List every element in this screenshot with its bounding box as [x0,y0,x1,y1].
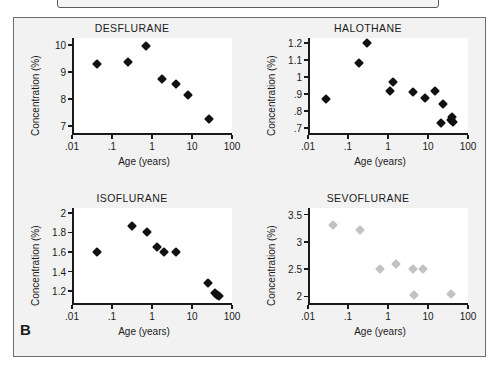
x-tick-label-sevoflurane: 10 [422,311,433,322]
x-tick-halothane [387,135,389,139]
x-tick-label-desflurane: 1 [149,141,155,152]
x-tick-label-desflurane: .01 [65,141,79,152]
y-tick-label-isoflurane: 1.6 [30,247,66,258]
y-tick-sevoflurane [304,241,308,243]
x-tick-label-halothane: .1 [344,141,352,152]
y-axis-sevoflurane [308,208,310,304]
x-tick-label-desflurane: .1 [108,141,116,152]
x-tick-halothane [347,135,349,139]
panel-title-halothane: HALOTHANE [250,22,486,34]
y-tick-isoflurane [68,251,72,253]
x-tick-desflurane [231,135,233,139]
x-tick-label-isoflurane: 10 [186,311,197,322]
y-tick-label-isoflurane: 2 [30,207,66,218]
x-tick-label-halothane: 10 [422,141,433,152]
x-tick-isoflurane [111,305,113,309]
x-tick-halothane [307,135,309,139]
axis-title-x-desflurane: Age (years) [118,156,170,167]
y-tick-label-isoflurane: 1.2 [30,286,66,297]
x-tick-sevoflurane [467,305,469,309]
y-tick-halothane [304,42,308,44]
y-tick-label-halothane: .9 [266,88,302,99]
x-tick-isoflurane [231,305,233,309]
panel-letter-b: B [20,321,31,338]
x-tick-label-sevoflurane: 100 [460,311,477,322]
x-tick-label-isoflurane: .1 [108,311,116,322]
axis-title-x-halothane: Age (years) [354,156,406,167]
x-tick-halothane [467,135,469,139]
y-tick-label-sevoflurane: 2.5 [266,264,302,275]
x-tick-label-halothane: 1 [385,141,391,152]
y-tick-desflurane [68,71,72,73]
x-tick-halothane [427,135,429,139]
x-tick-sevoflurane [387,305,389,309]
x-tick-label-isoflurane: 1 [149,311,155,322]
x-tick-isoflurane [191,305,193,309]
x-tick-desflurane [191,135,193,139]
y-tick-halothane [304,76,308,78]
y-tick-isoflurane [68,212,72,214]
axis-title-x-isoflurane: Age (years) [118,326,170,337]
y-tick-label-isoflurane: 1.4 [30,266,66,277]
y-tick-desflurane [68,125,72,127]
x-tick-label-sevoflurane: 1 [385,311,391,322]
y-tick-label-halothane: 1.2 [266,38,302,49]
y-tick-label-halothane: 1 [266,72,302,83]
y-tick-halothane [304,93,308,95]
y-tick-label-desflurane: 8 [30,94,66,105]
x-tick-label-isoflurane: .01 [65,311,79,322]
panel-desflurane: DESFLURANE Concentration (%) Age (years)… [14,18,250,188]
y-tick-label-sevoflurane: 3 [266,236,302,247]
panel-title-isoflurane: ISOFLURANE [14,192,250,204]
y-tick-label-desflurane: 7 [30,121,66,132]
y-tick-label-halothane: .8 [266,105,302,116]
x-tick-desflurane [111,135,113,139]
x-tick-label-desflurane: 10 [186,141,197,152]
y-tick-sevoflurane [304,214,308,216]
y-tick-halothane [304,127,308,129]
x-tick-isoflurane [71,305,73,309]
y-tick-desflurane [68,44,72,46]
clipped-panel-above [57,0,439,8]
figure-frame: DESFLURANE Concentration (%) Age (years)… [13,17,486,357]
panel-halothane: HALOTHANE Concentration (%) Age (years) … [250,18,486,188]
x-tick-label-halothane: 100 [460,141,477,152]
x-tick-sevoflurane [427,305,429,309]
y-axis-halothane [308,38,310,134]
y-tick-desflurane [68,98,72,100]
panel-sevoflurane: SEVOFLURANE Concentration (%) Age (years… [250,188,486,358]
y-tick-label-desflurane: 10 [30,39,66,50]
x-tick-label-desflurane: 100 [224,141,241,152]
y-tick-label-sevoflurane: 3.5 [266,209,302,220]
y-tick-halothane [304,110,308,112]
axis-title-x-sevoflurane: Age (years) [354,326,406,337]
y-tick-isoflurane [68,290,72,292]
panel-isoflurane: ISOFLURANE Concentration (%) Age (years)… [14,188,250,358]
x-tick-label-sevoflurane: .1 [344,311,352,322]
y-tick-label-isoflurane: 1.8 [30,227,66,238]
y-tick-sevoflurane [304,296,308,298]
y-axis-desflurane [72,38,74,134]
y-tick-isoflurane [68,271,72,273]
panel-title-sevoflurane: SEVOFLURANE [250,192,486,204]
plot-area-halothane [308,38,468,133]
x-tick-label-sevoflurane: .01 [301,311,315,322]
x-tick-sevoflurane [307,305,309,309]
figure-root: DESFLURANE Concentration (%) Age (years)… [0,0,499,370]
y-tick-label-halothane: .7 [266,122,302,133]
y-tick-sevoflurane [304,268,308,270]
x-tick-desflurane [71,135,73,139]
y-tick-label-sevoflurane: 2 [266,291,302,302]
y-tick-label-halothane: 1.1 [266,55,302,66]
x-tick-label-halothane: .01 [301,141,315,152]
y-tick-label-desflurane: 9 [30,66,66,77]
x-tick-desflurane [151,135,153,139]
x-tick-sevoflurane [347,305,349,309]
x-tick-isoflurane [151,305,153,309]
y-tick-halothane [304,59,308,61]
panel-title-desflurane: DESFLURANE [14,22,250,34]
y-axis-isoflurane [72,208,74,304]
y-tick-isoflurane [68,232,72,234]
x-tick-label-isoflurane: 100 [224,311,241,322]
